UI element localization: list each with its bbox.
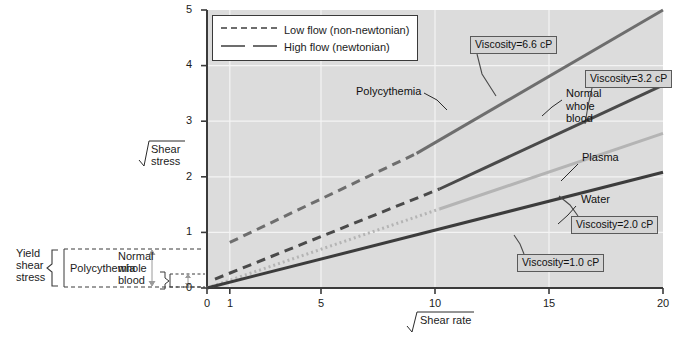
x-axis-title: Shear rate: [420, 314, 471, 326]
x-tick-label-15: 15: [539, 297, 559, 309]
y-tick-label-3: 3: [182, 114, 196, 126]
legend-swatch-solid-icon: [221, 45, 277, 48]
legend: Low flow (non-newtonian) High flow (newt…: [212, 15, 418, 61]
y-tick-label-0: 0: [182, 281, 196, 293]
callout-viscosity-2-0: Viscosity=2.0 cP: [571, 216, 658, 234]
annotation-plasma: Plasma: [582, 151, 619, 164]
y-tick-label-1: 1: [182, 225, 196, 237]
y-tick-label-2: 2: [182, 170, 196, 182]
x-tick-label-1: 1: [223, 297, 237, 309]
annotation-normal-whole-blood: Normal whole blood: [566, 87, 601, 125]
legend-entry-low-flow: Low flow (non-newtonian): [221, 21, 409, 38]
y-axis-title: Shear stress: [151, 143, 180, 167]
figure-container: 0 1 2 3 4 5 0 1 5 10 15 20 Shear stress …: [0, 0, 686, 340]
callout-viscosity-3-2: Viscosity=3.2 cP: [585, 70, 672, 88]
legend-label-low-flow: Low flow (non-newtonian): [284, 24, 409, 36]
x-tick-label-5: 5: [314, 297, 328, 309]
yield-region-normal-blood-label: Normal whole blood: [118, 250, 153, 286]
x-tick-label-20: 20: [653, 297, 673, 309]
annotation-water: Water: [581, 193, 610, 206]
y-tick-label-4: 4: [182, 58, 196, 70]
callout-viscosity-1-0: Viscosity=1.0 cP: [517, 254, 604, 272]
legend-swatch-dashed-icon: [221, 27, 277, 32]
x-tick-label-10: 10: [425, 297, 445, 309]
legend-entry-high-flow: High flow (newtonian): [221, 38, 409, 55]
x-tick-label-0: 0: [200, 297, 214, 309]
yield-shear-stress-title: Yield shear stress: [16, 247, 45, 283]
legend-label-high-flow: High flow (newtonian): [284, 41, 390, 53]
y-tick-label-5: 5: [182, 3, 196, 15]
callout-viscosity-6-6: Viscosity=6.6 cP: [470, 36, 557, 54]
annotation-polycythemia: Polycythemia: [356, 85, 421, 98]
